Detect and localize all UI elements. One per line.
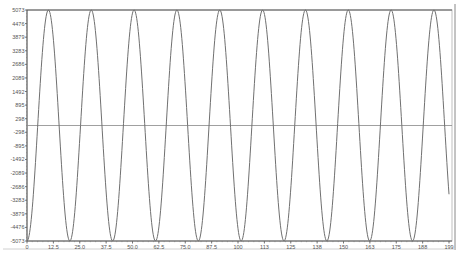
- x-tick-label: 87.5: [206, 244, 217, 250]
- y-tick-label: -895: [13, 143, 24, 149]
- x-tick-label: 125: [286, 244, 295, 250]
- x-tick-label: 0: [25, 244, 28, 250]
- x-tick-label: 37.5: [101, 244, 112, 250]
- y-tick-label: 3879: [12, 34, 24, 40]
- y-tick-label: -298: [13, 129, 24, 135]
- x-tick-label: 62.5: [154, 244, 165, 250]
- y-tick-label: -2686: [10, 184, 24, 190]
- x-tick-label: 138: [313, 244, 322, 250]
- y-tick-label: 298: [15, 116, 24, 122]
- y-tick-label: -1492: [10, 156, 24, 162]
- y-tick-label: 2686: [12, 61, 24, 67]
- x-tick-label: 150: [339, 244, 348, 250]
- y-tick-label: 895: [15, 102, 24, 108]
- y-tick-label: 1492: [12, 89, 24, 95]
- line-chart: 5073447638793283268620891492895298-298-8…: [0, 0, 457, 255]
- plot-area: [3, 4, 455, 250]
- x-tick-label: 25.0: [74, 244, 85, 250]
- y-tick-label: -4476: [10, 224, 24, 230]
- y-tick-label: -2089: [10, 170, 24, 176]
- x-tick-label: 163: [365, 244, 374, 250]
- x-tick-label: 75.0: [180, 244, 191, 250]
- x-tick-label: 100: [233, 244, 242, 250]
- x-tick-label: 12.5: [48, 244, 59, 250]
- y-tick-label: -5073: [10, 238, 24, 244]
- y-tick-label: 4476: [12, 21, 24, 27]
- x-tick-label: 188: [418, 244, 427, 250]
- y-tick-label: 5073: [12, 7, 24, 13]
- chart-window: 5073447638793283268620891492895298-298-8…: [0, 0, 457, 255]
- y-tick-label: 3283: [12, 48, 24, 54]
- x-tick-label: 113: [260, 244, 269, 250]
- x-tick-label: 50.0: [127, 244, 138, 250]
- x-tick-label: 199: [444, 244, 453, 250]
- y-tick-label: -3879: [10, 211, 24, 217]
- x-tick-label: 175: [392, 244, 401, 250]
- y-tick-label: 2089: [12, 75, 24, 81]
- y-tick-label: -3283: [10, 197, 24, 203]
